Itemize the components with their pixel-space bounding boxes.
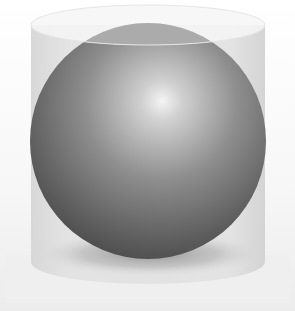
sphere bbox=[30, 23, 266, 259]
illustration bbox=[0, 0, 295, 311]
sphere-in-cylinder-scene bbox=[0, 0, 295, 311]
